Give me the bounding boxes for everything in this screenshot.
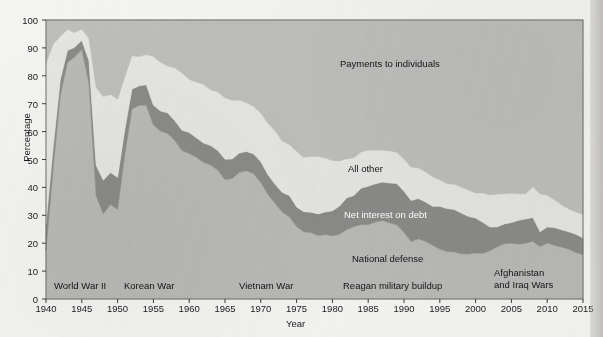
y-tick-label-60: 60 bbox=[16, 126, 38, 137]
x-tick-label-2010: 2010 bbox=[537, 303, 558, 314]
series-label-national-defense: National defense bbox=[352, 253, 423, 265]
event-label-world-war-ii: World War II bbox=[54, 280, 106, 292]
y-tick-label-30: 30 bbox=[16, 210, 38, 221]
x-tick-label-1940: 1940 bbox=[35, 303, 56, 314]
series-label-payments-to-individuals: Payments to individuals bbox=[340, 58, 440, 70]
x-tick-label-2005: 2005 bbox=[501, 303, 522, 314]
event-label-reagan-military-buildup: Reagan military buildup bbox=[343, 280, 442, 292]
y-tick-label-40: 40 bbox=[16, 182, 38, 193]
x-tick-label-2015: 2015 bbox=[572, 303, 593, 314]
y-tick-label-20: 20 bbox=[16, 238, 38, 249]
x-tick-label-1970: 1970 bbox=[250, 303, 271, 314]
event-label-korean-war: Korean War bbox=[124, 280, 174, 292]
x-tick-label-1965: 1965 bbox=[214, 303, 235, 314]
y-tick-label-80: 80 bbox=[16, 70, 38, 81]
series-label-net-interest-on-debt: Net interest on debt bbox=[344, 209, 427, 221]
x-tick-label-2000: 2000 bbox=[465, 303, 486, 314]
y-tick-label-100: 100 bbox=[16, 15, 38, 26]
x-tick-label-1955: 1955 bbox=[143, 303, 164, 314]
y-tick-label-50: 50 bbox=[16, 154, 38, 165]
x-tick-label-1990: 1990 bbox=[393, 303, 414, 314]
series-label-all-other: All other bbox=[348, 163, 383, 175]
x-tick-label-1950: 1950 bbox=[107, 303, 128, 314]
chart-areas bbox=[46, 20, 583, 299]
x-tick-label-1960: 1960 bbox=[179, 303, 200, 314]
y-tick-label-70: 70 bbox=[16, 98, 38, 109]
x-tick-label-1995: 1995 bbox=[429, 303, 450, 314]
y-tick-label-10: 10 bbox=[16, 266, 38, 277]
event-label-afghanistan-and-iraq-wars: Afghanistan and Iraq Wars bbox=[494, 267, 553, 291]
x-tick-label-1980: 1980 bbox=[322, 303, 343, 314]
figure-stacked-area-chart: Percentage Year 194019451950195519601965… bbox=[0, 0, 603, 337]
event-label-vietnam-war: Vietnam War bbox=[239, 280, 293, 292]
y-tick-label-0: 0 bbox=[16, 294, 38, 305]
x-tick-label-1975: 1975 bbox=[286, 303, 307, 314]
x-tick-label-1945: 1945 bbox=[71, 303, 92, 314]
x-axis-title: Year bbox=[286, 318, 305, 329]
y-tick-label-90: 90 bbox=[16, 42, 38, 53]
x-tick-label-1985: 1985 bbox=[358, 303, 379, 314]
